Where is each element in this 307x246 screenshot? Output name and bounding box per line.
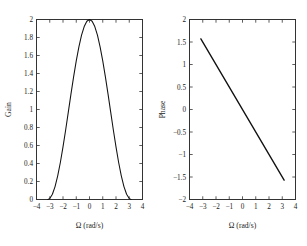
gain-y-axis-label: Gain	[4, 102, 13, 117]
y-tick-label: 1.4	[24, 70, 33, 78]
x-tick-label: −4	[33, 203, 41, 211]
y-tick-label: −0.5	[173, 129, 186, 137]
x-tick-label: 1	[101, 203, 105, 211]
y-tick-label: 0.6	[24, 142, 33, 150]
x-tick-label: −3	[199, 203, 207, 211]
x-tick-label: −2	[59, 203, 67, 211]
phase-x-tick-labels: −4−3−2−101234	[186, 203, 298, 211]
y-tick-label: 0.2	[24, 178, 33, 186]
x-tick-label: −4	[186, 203, 194, 211]
x-tick-label: 3	[127, 203, 131, 211]
y-tick-label: 1	[29, 106, 33, 114]
two-panel-bode-figure: −4−3−2−101234 00.20.40.60.811.21.41.61.8…	[0, 0, 307, 246]
x-tick-label: −1	[225, 203, 233, 211]
phase-x-axis-label: Ω (rad/s)	[229, 221, 257, 230]
phase-y-axis-label: Phase	[158, 100, 167, 118]
y-tick-label: 2	[182, 16, 186, 24]
x-tick-label: 2	[114, 203, 118, 211]
x-tick-label: 0	[88, 203, 92, 211]
gain-x-tick-labels: −4−3−2−101234	[33, 203, 145, 211]
x-tick-label: 4	[141, 203, 145, 211]
x-tick-label: 0	[241, 203, 245, 211]
y-tick-label: 1.6	[24, 52, 33, 60]
y-tick-label: 1.2	[24, 88, 33, 96]
x-tick-label: 3	[280, 203, 284, 211]
gain-x-axis-label: Ω (rad/s)	[76, 221, 104, 230]
y-tick-label: 0	[182, 106, 186, 114]
y-tick-label: −2	[178, 196, 186, 204]
y-tick-label: 1.8	[24, 34, 33, 42]
y-tick-label: 1.5	[177, 39, 186, 47]
x-tick-label: 1	[254, 203, 258, 211]
x-tick-label: 4	[294, 203, 298, 211]
x-tick-label: −3	[46, 203, 54, 211]
y-tick-label: 0	[29, 196, 33, 204]
y-tick-label: 0.8	[24, 124, 33, 132]
x-tick-label: −2	[212, 203, 220, 211]
x-tick-label: 2	[267, 203, 271, 211]
y-tick-label: −1	[178, 151, 186, 159]
x-tick-label: −1	[72, 203, 80, 211]
y-tick-label: 2	[29, 16, 33, 24]
y-tick-label: −1.5	[173, 174, 186, 182]
figure-container: −4−3−2−101234 00.20.40.60.811.21.41.61.8…	[0, 0, 307, 246]
y-tick-label: 0.5	[177, 84, 186, 92]
y-tick-label: 0.4	[24, 160, 33, 168]
y-tick-label: 1	[182, 61, 186, 69]
